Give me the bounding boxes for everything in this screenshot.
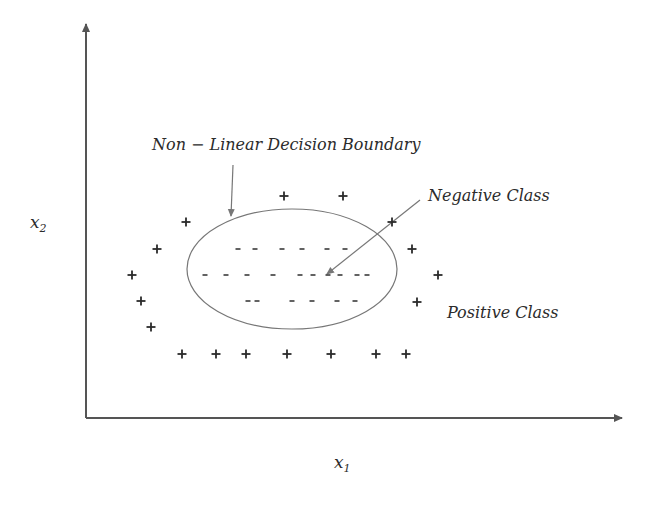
positive-point — [413, 298, 422, 307]
positive-point — [280, 192, 289, 201]
positive-class-label: Positive Class — [446, 303, 559, 322]
positive-point — [182, 218, 191, 227]
positive-point — [178, 350, 187, 359]
positive-point — [137, 297, 146, 306]
y-axis-label: x2 — [30, 212, 47, 235]
positive-point — [283, 350, 292, 359]
positive-point — [153, 245, 162, 254]
positive-class-points — [128, 192, 443, 359]
positive-point — [147, 323, 156, 332]
positive-point — [372, 350, 381, 359]
positive-point — [339, 192, 348, 201]
negative-pointer-arrow — [327, 200, 420, 274]
positive-point — [242, 350, 251, 359]
negative-class-points — [203, 249, 370, 301]
diagram-svg: Non − Linear Decision Boundary Negative … — [0, 0, 647, 506]
positive-point — [408, 245, 417, 254]
positive-point — [327, 350, 336, 359]
positive-point — [128, 271, 137, 280]
positive-point — [212, 350, 221, 359]
decision-boundary-ellipse — [187, 209, 397, 329]
boundary-label: Non − Linear Decision Boundary — [151, 135, 421, 154]
boundary-pointer-arrow — [231, 165, 233, 216]
positive-point — [402, 350, 411, 359]
negative-class-label: Negative Class — [427, 186, 550, 205]
decision-boundary-diagram: Non − Linear Decision Boundary Negative … — [0, 0, 647, 506]
positive-point — [434, 271, 443, 280]
x-axis-label: x1 — [334, 452, 351, 475]
